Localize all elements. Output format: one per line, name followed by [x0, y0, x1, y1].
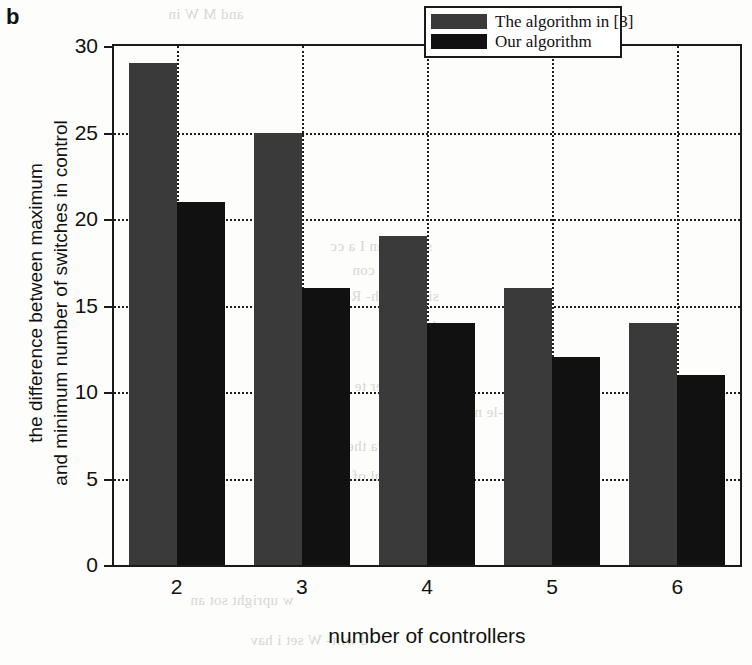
- y-axis-tick: [104, 219, 114, 221]
- x-axis-tick-label: 2: [147, 575, 207, 599]
- x-axis-tick-label: 6: [647, 575, 707, 599]
- y-axis-title-line-1: the difference between maximum: [23, 23, 48, 583]
- y-axis-tick: [104, 479, 114, 481]
- background-text-line: and M W in: [168, 6, 244, 23]
- legend-item: The algorithm in [3]: [431, 12, 615, 31]
- legend-label: The algorithm in [3]: [495, 13, 633, 30]
- y-axis-tick: [104, 306, 114, 308]
- y-axis-tick-label: 0: [50, 553, 98, 577]
- bar: [629, 323, 677, 565]
- y-axis-tick-label: 25: [50, 121, 98, 145]
- y-axis-tick-label: 5: [50, 467, 98, 491]
- bar: [379, 236, 427, 565]
- y-axis-tick: [104, 46, 114, 48]
- bar: [504, 288, 552, 565]
- x-axis-tick-label: 4: [397, 575, 457, 599]
- legend-swatch-icon: [431, 34, 487, 49]
- x-axis-title: number of controllers: [112, 624, 742, 648]
- figure-panel-b: and M W in sen) Than I a cc a gan te con…: [0, 0, 752, 665]
- plot-area: [112, 44, 742, 567]
- bar-layer: [114, 46, 740, 565]
- y-axis-tick-label: 30: [50, 34, 98, 58]
- legend-swatch-icon: [431, 14, 487, 29]
- bar: [552, 357, 600, 565]
- y-axis-tick: [104, 392, 114, 394]
- bar: [302, 288, 350, 565]
- bar: [129, 63, 177, 565]
- y-axis-tick: [104, 565, 114, 567]
- legend-label: Our algorithm: [495, 33, 592, 50]
- legend-item: Our algorithm: [431, 32, 615, 51]
- bar: [177, 202, 225, 565]
- y-axis-tick-label: 20: [50, 207, 98, 231]
- y-axis-tick: [104, 133, 114, 135]
- bar: [427, 323, 475, 565]
- x-axis-tick-label: 3: [272, 575, 332, 599]
- bar: [677, 375, 725, 565]
- x-axis-tick-label: 5: [522, 575, 582, 599]
- legend: The algorithm in [3] Our algorithm: [424, 6, 622, 58]
- y-axis-tick-label: 15: [50, 294, 98, 318]
- y-axis-tick-label: 10: [50, 380, 98, 404]
- panel-label: b: [6, 4, 19, 30]
- bar: [254, 133, 302, 566]
